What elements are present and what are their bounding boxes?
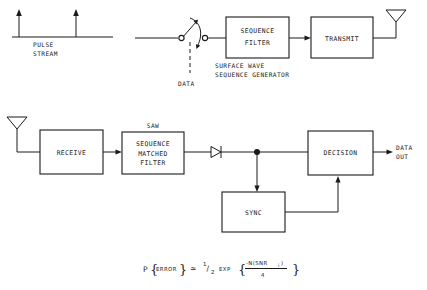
decision-to-data-out-wire <box>373 149 393 154</box>
equation-numerator-subscript: i <box>278 263 280 268</box>
matched-filter-label-line1: SEQUENCE <box>136 140 170 148</box>
pulse-stream-label-line1: PULSE <box>33 41 54 48</box>
matched-filter-label-line2: MATCHED <box>138 150 168 158</box>
equation-denominator: 4 <box>261 272 265 278</box>
decision-label: DECISION <box>324 149 358 157</box>
equation-p-symbol: P <box>143 265 148 274</box>
saw-label: SAW <box>147 122 159 129</box>
surface-wave-caption-line1: SURFACE WAVE <box>215 62 265 69</box>
receive-label: RECEIVE <box>57 149 87 157</box>
data-out-label-line1: DATA <box>396 144 413 151</box>
equation-error-text: ERROR <box>156 266 177 272</box>
sequence-filter-label-line1: SEQUENCE <box>241 27 275 35</box>
equation-approx-sign: ≃ <box>190 264 197 273</box>
data-out-label-line2: OUT <box>396 153 408 160</box>
data-label: DATA <box>178 80 195 87</box>
equation-exp-text: EXP <box>219 266 231 272</box>
equation-numerator-end: ) <box>281 260 284 266</box>
equation-exp-brace-close: } <box>292 262 301 277</box>
error-probability-equation: P { ERROR } ≃ 1 / 2 EXP { -N(SNR i ) 4 } <box>143 260 301 278</box>
pulse-stream-label-line2: STREAM <box>33 50 58 57</box>
equation-numerator: -N(SNR <box>246 260 268 266</box>
equation-brace-close: } <box>179 262 188 277</box>
diode-icon <box>211 146 221 158</box>
surface-wave-caption-line2: SEQUENCE GENERATOR <box>215 71 289 78</box>
junction-to-sync-wire <box>254 152 259 192</box>
transmit-label: TRANSMIT <box>325 35 359 43</box>
antenna-transmit-icon <box>386 10 406 22</box>
equation-half-denominator: 2 <box>211 269 215 275</box>
receive-to-matched-filter-wire <box>103 149 122 154</box>
block-diagram-canvas: PULSE STREAM DATA SEQUENCE FILTER SURFAC… <box>0 0 427 290</box>
toggle-switch-icon[interactable] <box>179 18 208 49</box>
sync-to-decision-wire <box>285 176 341 212</box>
sync-label: SYNC <box>245 209 262 217</box>
filter-to-transmit-wire <box>289 35 311 40</box>
pulse-stream-waveform <box>12 9 113 37</box>
equation-half-slash: / <box>207 264 210 273</box>
sequence-filter-box[interactable] <box>226 17 289 58</box>
sequence-filter-label-line2: FILTER <box>245 39 271 47</box>
transmit-to-antenna-wire <box>373 22 396 38</box>
matched-filter-label-line3: FILTER <box>140 159 166 167</box>
antenna-receive-icon <box>7 117 40 152</box>
